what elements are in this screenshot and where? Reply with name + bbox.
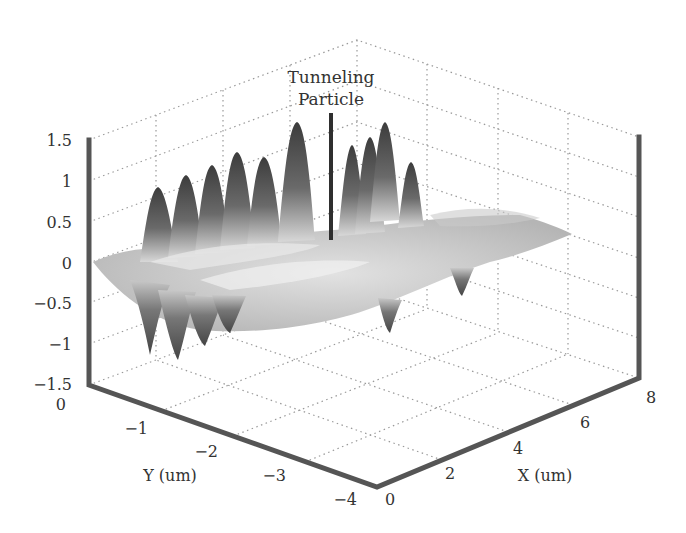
surface-plot: Tunneling Particle 1.5 1 0.5 0 −0.5 −1 −… — [0, 0, 686, 533]
svg-text:4: 4 — [513, 439, 523, 458]
svg-text:8: 8 — [646, 388, 656, 407]
svg-text:−1: −1 — [48, 335, 72, 354]
svg-text:1: 1 — [62, 172, 72, 191]
annotation-line1: Tunneling — [288, 67, 375, 87]
x-axis-label: X (um) — [518, 466, 572, 485]
svg-text:0: 0 — [385, 490, 395, 509]
svg-text:−3: −3 — [262, 466, 286, 485]
svg-text:−4: −4 — [333, 490, 357, 509]
svg-text:−1: −1 — [124, 419, 148, 438]
annotation-line2: Particle — [298, 89, 364, 109]
svg-text:6: 6 — [580, 413, 590, 432]
x-axis-ticks: 0 2 4 6 8 — [385, 388, 656, 509]
svg-text:−1.5: −1.5 — [33, 375, 72, 394]
svg-text:−0.5: −0.5 — [33, 294, 72, 313]
svg-text:2: 2 — [445, 464, 455, 483]
svg-text:−2: −2 — [194, 442, 218, 461]
svg-text:1.5: 1.5 — [47, 131, 72, 150]
svg-text:0: 0 — [56, 395, 66, 414]
z-axis-ticks: 1.5 1 0.5 0 −0.5 −1 −1.5 — [33, 131, 72, 394]
svg-text:0.5: 0.5 — [47, 213, 72, 232]
y-axis-label: Y (um) — [142, 466, 197, 485]
y-axis-ticks: 0 −1 −2 −3 −4 — [56, 395, 357, 509]
svg-text:0: 0 — [62, 254, 72, 273]
